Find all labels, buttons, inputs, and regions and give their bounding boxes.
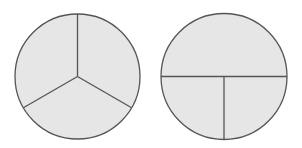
- circle-thirds: [15, 14, 140, 139]
- diagram-canvas: [0, 0, 302, 148]
- circle-half-and-quarters: [161, 14, 287, 140]
- fraction-circles-diagram: [0, 0, 302, 148]
